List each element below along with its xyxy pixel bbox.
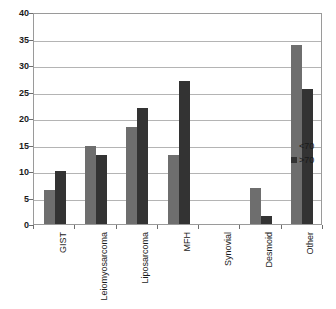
bar-group	[209, 14, 231, 224]
bar	[96, 155, 107, 224]
y-tick-label: 30	[5, 62, 29, 71]
bar-group	[85, 14, 107, 224]
bar	[168, 155, 179, 224]
x-tick-label: Leiomyosarcoma	[99, 232, 109, 301]
bar	[179, 81, 190, 224]
bar	[85, 146, 96, 224]
x-tick-mark	[198, 225, 199, 229]
x-tick-mark	[281, 225, 282, 229]
legend-swatch-icon	[291, 157, 297, 163]
x-tick-mark	[74, 225, 75, 229]
bar-group	[291, 14, 313, 224]
y-axis: 0510152025303540	[3, 13, 29, 225]
bar	[250, 188, 261, 224]
x-tick-label: MFH	[182, 232, 192, 252]
legend-item: >70	[291, 153, 331, 167]
bar-group	[250, 14, 272, 224]
bar-group	[44, 14, 66, 224]
x-tick-label: Other	[305, 232, 315, 255]
legend-label: <70	[299, 142, 314, 151]
bar-group	[126, 14, 148, 224]
legend-item: <70	[291, 139, 331, 153]
x-tick-mark	[116, 225, 117, 229]
legend-swatch-icon	[291, 143, 297, 149]
x-tick-mark	[33, 225, 34, 229]
bar-group	[168, 14, 190, 224]
x-tick-mark	[239, 225, 240, 229]
x-tick-label: Liposarcoma	[140, 232, 150, 284]
bar	[291, 45, 302, 224]
y-tick-label: 10	[5, 168, 29, 177]
y-tick-label: 25	[5, 89, 29, 98]
plot-area	[33, 13, 322, 225]
y-tick-label: 20	[5, 115, 29, 124]
bar	[44, 190, 55, 224]
y-tick-label: 35	[5, 36, 29, 45]
bars-layer	[34, 14, 321, 224]
bar-chart: 0510152025303540 GISTLeiomyosarcomaLipos…	[0, 0, 336, 309]
y-tick-label: 0	[5, 221, 29, 230]
x-tick-label: Synovial	[223, 232, 233, 266]
legend: <70>70	[291, 139, 331, 167]
bar	[261, 216, 272, 224]
x-tick-mark	[157, 225, 158, 229]
bar	[55, 171, 66, 224]
legend-label: >70	[299, 156, 314, 165]
bar	[126, 127, 137, 224]
x-tick-mark	[322, 225, 323, 229]
x-tick-label: GIST	[58, 232, 68, 253]
y-tick-label: 40	[5, 9, 29, 18]
bar	[137, 108, 148, 224]
y-tick-label: 5	[5, 195, 29, 204]
x-tick-label: Desmoid	[264, 232, 274, 268]
y-tick-label: 15	[5, 142, 29, 151]
